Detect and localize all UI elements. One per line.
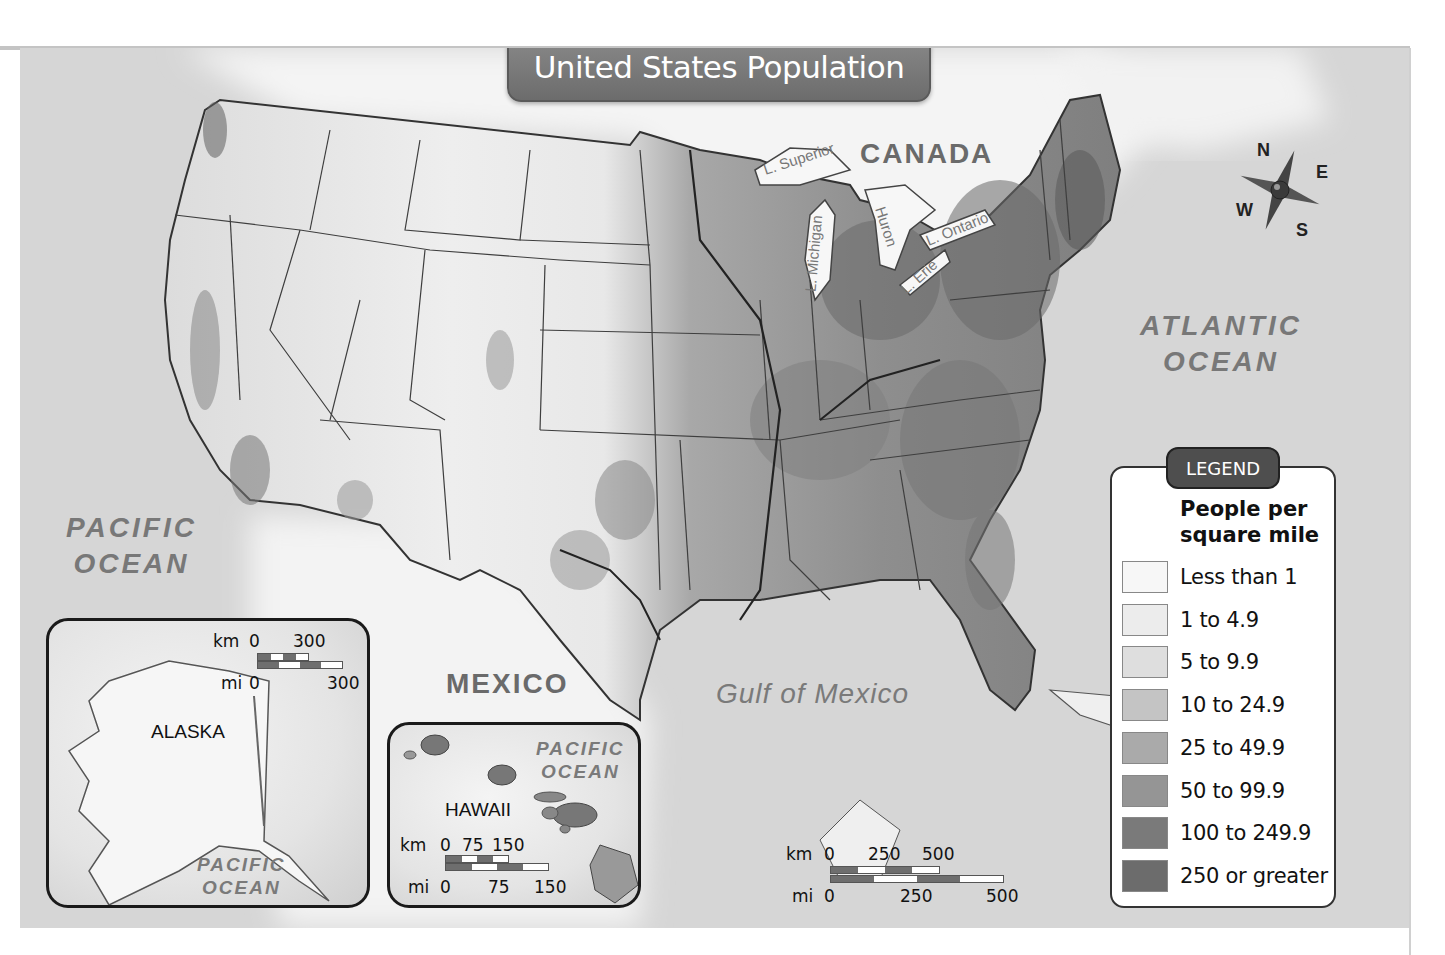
legend-label: 25 to 49.9 <box>1180 736 1285 760</box>
scale-km-max: 150 <box>492 835 524 855</box>
legend-swatch <box>1122 689 1168 721</box>
scale-mi-unit: mi <box>792 886 813 906</box>
scale-km-unit: km <box>213 631 239 651</box>
compass-rose: N E S W <box>1230 140 1330 240</box>
scale-mi-max: 300 <box>327 673 359 693</box>
legend-label: 10 to 24.9 <box>1180 693 1285 717</box>
legend-label: 50 to 99.9 <box>1180 779 1285 803</box>
atlantic-line1: ATLANTIC <box>1140 308 1302 344</box>
hawaii-ocean-line1: PACIFIC <box>536 737 625 760</box>
scale-km-0: 0 <box>824 844 835 864</box>
legend-swatch <box>1122 732 1168 764</box>
legend-item: 5 to 9.9 <box>1122 645 1259 679</box>
compass-n: N <box>1257 140 1270 161</box>
label-gulf-of-mexico: Gulf of Mexico <box>716 678 909 710</box>
compass-w: W <box>1236 200 1253 221</box>
legend-label: Less than 1 <box>1180 565 1297 589</box>
alaska-ocean-line1: PACIFIC <box>197 853 286 876</box>
scale-mi-unit: mi <box>408 877 429 897</box>
legend-panel: People per square mile Less than 1 1 to … <box>1110 466 1336 908</box>
scale-km-0: 0 <box>249 631 260 651</box>
legend-title-line1: People per <box>1180 496 1319 522</box>
legend-item: 10 to 24.9 <box>1122 688 1285 722</box>
legend-item: 1 to 4.9 <box>1122 603 1259 637</box>
legend-label: 1 to 4.9 <box>1180 608 1259 632</box>
scale-mi-0: 0 <box>249 673 260 693</box>
label-pacific-ocean: PACIFIC OCEAN <box>66 510 197 582</box>
legend-swatch <box>1122 775 1168 807</box>
scale-mi-mid: 250 <box>900 886 932 906</box>
legend-tab: LEGEND <box>1166 447 1280 489</box>
legend-item: 250 or greater <box>1122 859 1328 893</box>
legend-title-line2: square mile <box>1180 522 1319 548</box>
scale-km-max: 500 <box>922 844 954 864</box>
atlantic-line2: OCEAN <box>1140 344 1302 380</box>
hawaii-ocean-line2: OCEAN <box>536 760 625 783</box>
alaska-ocean-line2: OCEAN <box>197 876 286 899</box>
legend-label: 100 to 249.9 <box>1180 821 1311 845</box>
legend-swatch <box>1122 860 1168 892</box>
scale-mi-unit: mi <box>221 673 242 693</box>
label-canada: CANADA <box>860 138 993 170</box>
label-atlantic-ocean: ATLANTIC OCEAN <box>1140 308 1302 380</box>
label-alaska: ALASKA <box>151 721 225 743</box>
legend-item: 50 to 99.9 <box>1122 774 1285 808</box>
legend-label: 5 to 9.9 <box>1180 650 1259 674</box>
label-alaska-pacific: PACIFIC OCEAN <box>197 853 286 899</box>
legend-swatch <box>1122 817 1168 849</box>
legend-swatch <box>1122 561 1168 593</box>
compass-star-icon <box>1230 140 1330 240</box>
compass-s: S <box>1296 220 1308 241</box>
label-mexico: MEXICO <box>446 668 568 700</box>
label-hawaii: HAWAII <box>445 799 511 821</box>
label-hawaii-pacific: PACIFIC OCEAN <box>536 737 625 783</box>
pacific-line1: PACIFIC <box>66 510 197 546</box>
frame-right-border <box>1409 48 1411 955</box>
scale-km-mid: 75 <box>462 835 484 855</box>
scale-km-0: 0 <box>440 835 451 855</box>
scale-km-unit: km <box>786 844 812 864</box>
hawaii-inset: HAWAII PACIFIC OCEAN km 0 75 150 mi 0 75… <box>387 722 641 908</box>
legend-item: 25 to 49.9 <box>1122 731 1285 765</box>
compass-e: E <box>1316 162 1328 183</box>
alaska-inset: ALASKA PACIFIC OCEAN km 0 300 mi 0 300 <box>46 618 370 908</box>
legend-swatch <box>1122 604 1168 636</box>
legend-title: People per square mile <box>1180 496 1319 548</box>
legend-label: 250 or greater <box>1180 864 1328 888</box>
scale-mi-max: 500 <box>986 886 1018 906</box>
legend-swatch <box>1122 646 1168 678</box>
legend-item: 100 to 249.9 <box>1122 816 1311 850</box>
legend-item: Less than 1 <box>1122 560 1297 594</box>
scale-mi-0: 0 <box>824 886 835 906</box>
scale-mi-max: 150 <box>534 877 566 897</box>
scale-km-mid: 250 <box>868 844 900 864</box>
scale-mi-mid: 75 <box>488 877 510 897</box>
pacific-line2: OCEAN <box>66 546 197 582</box>
scale-km-unit: km <box>400 835 426 855</box>
scale-mi-0: 0 <box>440 877 451 897</box>
scale-km-max: 300 <box>293 631 325 651</box>
map-title: United States Population <box>507 48 931 102</box>
